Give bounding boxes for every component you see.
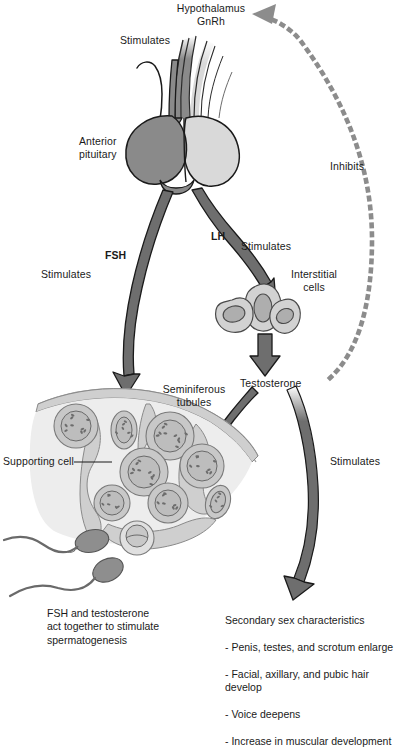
- right-caption-item-3: - Increase in muscular development: [225, 735, 404, 748]
- testosterone-arrow: [250, 334, 280, 376]
- right-caption-title: Secondary sex characteristics: [225, 614, 404, 627]
- right-caption-item-2: - Voice deepens: [225, 708, 404, 721]
- sperm-cells: [4, 526, 127, 596]
- anterior-pituitary-label: Anterior pituitary: [79, 135, 117, 160]
- stimulates-fsh-label: Stimulates: [41, 268, 91, 281]
- secondary-characteristics-arrow: [284, 386, 318, 600]
- hypothalamus-label: Hypothalamus GnRh: [156, 2, 266, 27]
- seminiferous-tubules-label: Seminiferous tubules: [152, 383, 236, 408]
- stimulates-lh-label: Stimulates: [241, 240, 291, 253]
- lh-label: LH: [211, 230, 225, 243]
- stimulates-secondary-label: Stimulates: [330, 455, 380, 468]
- fsh-label: FSH: [105, 249, 126, 262]
- hypothalamus-stalk: [175, 36, 232, 118]
- sperm-lower: [10, 553, 127, 596]
- supporting-cell-label: Supporting cell: [3, 455, 74, 468]
- left-caption: FSH and testosterone act together to sti…: [47, 607, 217, 647]
- right-caption-item-1: - Facial, axillary, and pubic hair devel…: [225, 668, 404, 695]
- fsh-arrow: [113, 190, 173, 396]
- testosterone-label: Testosterone: [240, 377, 301, 390]
- right-caption: Secondary sex characteristics - Penis, t…: [225, 601, 404, 751]
- right-caption-item-0: - Penis, testes, and scrotum enlarge: [225, 641, 404, 654]
- stimulates-top-label: Stimulates: [120, 34, 170, 47]
- interstitial-cells-label: Interstitial cells: [275, 268, 353, 293]
- pituitary-gland: [126, 116, 239, 194]
- inhibits-label: Inhibits: [330, 160, 364, 173]
- seminiferous-tubule-section: [30, 389, 258, 555]
